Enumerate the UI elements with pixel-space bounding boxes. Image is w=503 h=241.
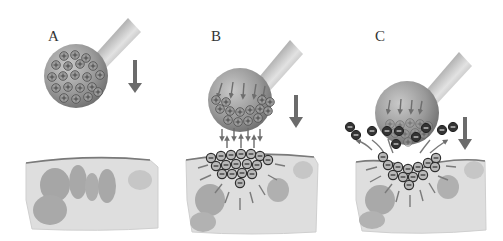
panel-b bbox=[186, 40, 318, 234]
down-arrow-icon bbox=[458, 117, 472, 150]
diagram-canvas bbox=[0, 0, 503, 241]
down-arrow-icon bbox=[128, 60, 142, 93]
down-arrow-icon bbox=[289, 95, 303, 128]
panel-c bbox=[345, 52, 486, 233]
tissue-block bbox=[26, 158, 158, 231]
panel-a bbox=[26, 18, 158, 230]
